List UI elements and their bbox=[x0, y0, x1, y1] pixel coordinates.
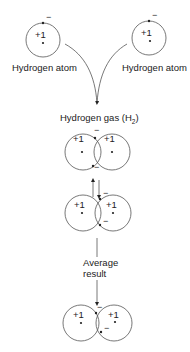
hydrogen-atom-label-right: Hydrogen atom bbox=[122, 62, 187, 73]
hydrogen-gas-text: Hydrogen gas (H bbox=[60, 112, 132, 123]
svg-text:+1: +1 bbox=[141, 27, 152, 38]
svg-text:−: − bbox=[152, 10, 157, 20]
svg-text:+1: +1 bbox=[73, 133, 84, 144]
h2-molecule-1: +1 +1 − − bbox=[65, 125, 130, 172]
svg-text:+1: +1 bbox=[106, 199, 117, 210]
hydrogen-gas-label: Hydrogen gas (H2) bbox=[60, 112, 139, 127]
svg-text:−: − bbox=[97, 302, 102, 312]
svg-text:+1: +1 bbox=[73, 309, 84, 320]
hydrogen-atom-left: − +1 bbox=[26, 12, 60, 57]
average-label-line2: result bbox=[83, 268, 106, 279]
equilibrium-arrows bbox=[93, 180, 99, 197]
svg-text:−: − bbox=[104, 323, 109, 333]
svg-text:−: − bbox=[46, 12, 51, 22]
h2-molecule-average: +1 +1 − − bbox=[63, 302, 132, 341]
average-label-line1: Average bbox=[83, 257, 118, 268]
hydrogen-gas-close: ) bbox=[135, 112, 138, 123]
svg-text:−: − bbox=[103, 216, 108, 226]
svg-text:+1: +1 bbox=[108, 309, 119, 320]
svg-text:+1: +1 bbox=[35, 29, 46, 40]
svg-text:−: − bbox=[94, 162, 99, 172]
svg-text:+1: +1 bbox=[74, 199, 85, 210]
hydrogen-atom-label-left: Hydrogen atom bbox=[12, 62, 77, 73]
svg-text:−: − bbox=[103, 188, 108, 198]
h2-molecule-2: +1 +1 − − bbox=[65, 188, 131, 231]
diagram-canvas: − +1 − +1 +1 +1 − − +1 +1 bbox=[0, 0, 190, 352]
converging-arrows bbox=[65, 44, 127, 103]
hydrogen-atom-right: − +1 bbox=[132, 10, 166, 55]
svg-text:+1: +1 bbox=[104, 133, 115, 144]
